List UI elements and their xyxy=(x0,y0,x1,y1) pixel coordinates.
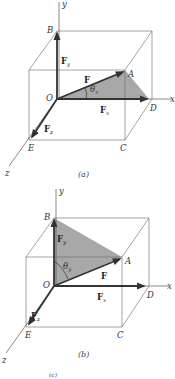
label-Fx: Fx xyxy=(97,292,107,303)
point-A: A xyxy=(127,69,134,79)
label-Fz: Fz xyxy=(31,311,40,322)
figure-b: y x z B O A D C E Fy F Fx Fz θy (b) xyxy=(1,186,172,365)
shaded-triangle-OAD xyxy=(57,70,149,99)
vector-diagrams: y x z B O A D C E Fy F Fx Fz θx (a) xyxy=(0,0,175,379)
label-Fz: Fz xyxy=(44,124,53,135)
point-O: O xyxy=(46,93,53,103)
caption-b: (b) xyxy=(78,350,89,359)
axis-label-z: z xyxy=(1,355,7,365)
label-Fx: Fx xyxy=(100,105,110,116)
cut-off-caption-fragment: (c) xyxy=(49,371,58,378)
vectors-b xyxy=(29,220,144,324)
point-D: D xyxy=(149,103,157,113)
point-E: E xyxy=(27,143,35,153)
axis-label-x: x xyxy=(170,94,175,104)
axis-label-y: y xyxy=(61,0,67,9)
axis-label-y: y xyxy=(58,186,64,196)
point-D: D xyxy=(146,290,154,300)
point-C: C xyxy=(117,330,124,340)
point-O: O xyxy=(43,280,50,290)
axis-label-z: z xyxy=(4,168,10,178)
point-C: C xyxy=(120,143,127,153)
label-F: F xyxy=(101,271,107,281)
point-A: A xyxy=(124,256,131,266)
caption-a: (a) xyxy=(78,170,89,179)
figure-a: y x z B O A D C E Fy F Fx Fz θx (a) xyxy=(4,0,175,179)
label-Fy: Fy xyxy=(61,56,71,68)
point-E: E xyxy=(24,330,32,340)
point-B: B xyxy=(46,25,53,35)
point-B: B xyxy=(43,212,50,222)
axis-label-x: x xyxy=(167,281,172,291)
shaded-triangle-OBA xyxy=(54,218,122,286)
